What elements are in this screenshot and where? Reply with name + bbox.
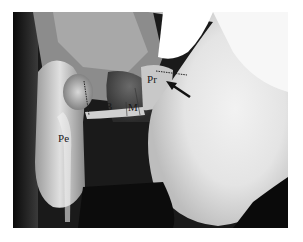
radiograph-image: Pr B M Pe [13, 12, 288, 228]
xray-shapes [13, 12, 288, 228]
label-membranous-urethra: M [128, 102, 138, 113]
label-penile-urethra: Pe [58, 133, 69, 144]
label-prostatic-urethra: Pr [147, 74, 157, 85]
label-bulbar-urethra: B [105, 101, 113, 112]
